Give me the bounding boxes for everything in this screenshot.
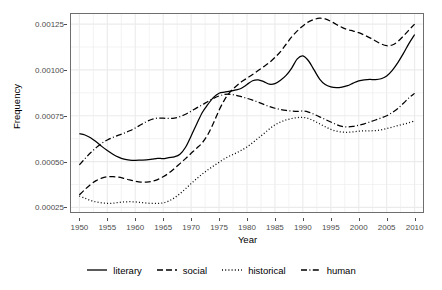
legend-label: literary [113, 265, 142, 276]
x-axis-tick-mark [79, 218, 80, 221]
x-axis-tick-label: 1980 [238, 223, 256, 232]
plot-panel [70, 13, 424, 213]
legend-item-literary[interactable]: literary [86, 264, 142, 276]
legend-label: human [327, 265, 356, 276]
x-axis-tick-label: 1965 [154, 223, 172, 232]
x-axis-tick-mark [331, 218, 332, 221]
legend-label: social [183, 265, 207, 276]
chart-figure: Frequency 0.000250.000500.000750.001000.… [0, 0, 442, 290]
x-axis-tick-mark [275, 218, 276, 221]
x-axis-tick-label: 2000 [350, 223, 368, 232]
dashdot-line-key [300, 264, 322, 276]
x-axis-tick-mark [359, 218, 360, 221]
x-axis-tick-label: 1985 [266, 223, 284, 232]
x-axis-tick-mark [135, 218, 136, 221]
x-axis-tick-mark [387, 218, 388, 221]
x-axis-tick-mark [415, 218, 416, 221]
y-axis-tick-mark [64, 24, 67, 25]
y-axis-tick-mark [64, 207, 67, 208]
y-axis-tick-labels: 0.000250.000500.000750.001000.00125 [16, 0, 64, 290]
y-axis-tick-label: 0.00100 [18, 65, 64, 74]
x-axis-tick-mark [219, 218, 220, 221]
x-axis-tick-mark [107, 218, 108, 221]
solid-line-key [86, 264, 108, 276]
x-axis-tick-mark [303, 218, 304, 221]
x-axis-tick-label: 1995 [322, 223, 340, 232]
legend-item-social[interactable]: social [156, 264, 207, 276]
y-axis-tick-mark [64, 116, 67, 117]
y-axis-tick-label: 0.00075 [18, 111, 64, 120]
x-axis-title: Year [70, 234, 425, 245]
x-axis-tick-label: 2010 [406, 223, 424, 232]
x-axis-tick-mark [191, 218, 192, 221]
x-axis-tick-label: 1950 [70, 223, 88, 232]
x-axis-tick-mark [163, 218, 164, 221]
x-axis-tick-label: 1970 [182, 223, 200, 232]
chart-legend: literarysocialhistoricalhuman [0, 258, 442, 282]
x-axis-tick-mark [247, 218, 248, 221]
y-axis-tick-label: 0.00125 [18, 20, 64, 29]
legend-item-historical[interactable]: historical [221, 264, 286, 276]
plot-area [71, 14, 423, 212]
x-axis-tick-label: 1955 [98, 223, 116, 232]
x-axis-tick-label: 2005 [378, 223, 396, 232]
dashed-line-key [156, 264, 178, 276]
dotted-line-key [221, 264, 243, 276]
x-axis-tick-label: 1975 [210, 223, 228, 232]
x-axis-tick-labels: 1950195519601965197019751980198519901995… [0, 218, 442, 232]
y-axis-tick-mark [64, 162, 67, 163]
legend-item-human[interactable]: human [300, 264, 356, 276]
y-axis-tick-label: 0.00050 [18, 157, 64, 166]
legend-label: historical [248, 265, 286, 276]
y-axis-tick-label: 0.00025 [18, 203, 64, 212]
x-axis-tick-label: 1990 [294, 223, 312, 232]
y-axis-tick-mark [64, 70, 67, 71]
x-axis-tick-label: 1960 [126, 223, 144, 232]
